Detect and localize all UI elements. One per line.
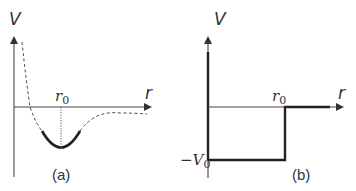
potential-curve-dashed-left xyxy=(22,42,42,131)
v-axis-label-a: V xyxy=(9,9,22,29)
potential-curve-dashed-right xyxy=(80,113,147,131)
panel-b: V r r0 −V0 (b) xyxy=(180,9,346,183)
potential-diagrams: V r r0 (a) V r r0 −V0 (b) xyxy=(0,0,356,191)
r0-label-b: r0 xyxy=(272,87,286,107)
v-axis-label-b: V xyxy=(214,9,227,29)
caption-b: (b) xyxy=(292,166,310,183)
r-axis-label-a: r xyxy=(145,83,153,103)
square-well-curve xyxy=(208,107,330,160)
panel-a: V r r0 (a) xyxy=(9,9,153,183)
r0-label-a: r0 xyxy=(55,87,69,107)
r-axis-label-b: r xyxy=(338,83,346,103)
caption-a: (a) xyxy=(52,166,70,183)
minus-v0-label: −V0 xyxy=(180,151,210,171)
